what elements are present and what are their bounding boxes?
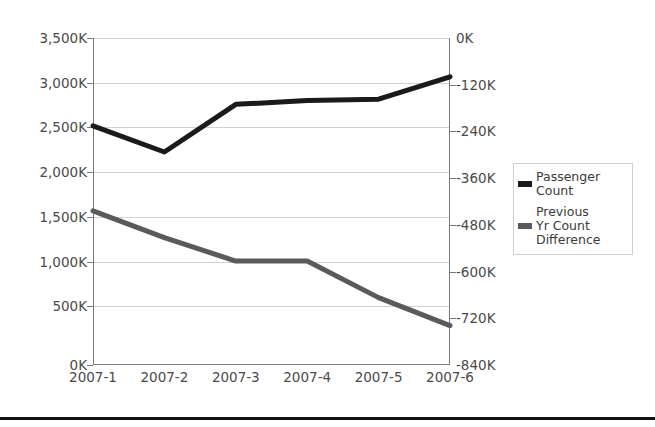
left-axis-tick-label: 1,000K [39,255,87,269]
x-axis: 2007-1 2007-2 2007-3 2007-4 2007-5 2007-… [93,369,450,389]
left-axis-tick-label: 3,500K [39,31,87,45]
left-axis-tick-label: 2,500K [39,120,87,134]
right-axis-tick-label: -480K [456,218,496,232]
legend-swatch-icon [518,223,532,229]
legend-label: Previous Yr Count Difference [536,205,600,247]
left-axis-tick [87,365,93,366]
right-axis-tick [450,178,456,179]
legend-swatch-icon [518,181,532,187]
x-axis-tick-label: 2007-3 [212,369,260,385]
footer-divider [0,417,655,420]
chart-container: 3,500K 3,000K 2,500K 2,000K 1,500K 1,000… [0,0,655,427]
series-plot [93,38,450,365]
x-axis-tick-label: 2007-4 [283,369,331,385]
legend-label-line: Passenger [536,169,600,184]
right-axis-tick [450,85,456,86]
left-axis-tick-label: 500K [52,299,87,313]
right-axis-tick-label: 0K [456,31,473,45]
right-axis-tick [450,272,456,273]
right-axis-tick [450,318,456,319]
series-line-previous-yr-count-difference [93,211,450,326]
left-axis-tick-label: 3,000K [39,76,87,90]
right-axis-tick-label: -600K [456,265,496,279]
series-line-passenger-count [93,77,450,152]
legend-label-line: Yr Count [536,218,590,233]
right-axis-tick-label: -240K [456,124,496,138]
chart-legend: Passenger Count Previous Yr Count Differ… [513,163,633,255]
right-axis-tick [450,131,456,132]
left-axis-tick-label: 1,500K [39,210,87,224]
left-y-axis: 3,500K 3,000K 2,500K 2,000K 1,500K 1,000… [0,0,87,427]
right-axis-tick [450,225,456,226]
right-axis-tick-label: -720K [456,311,496,325]
right-axis-tick-label: -360K [456,171,496,185]
left-axis-tick-label: 2,000K [39,165,87,179]
x-axis-tick-label: 2007-1 [69,369,117,385]
x-axis-tick-label: 2007-2 [140,369,188,385]
legend-label: Passenger Count [536,170,600,198]
legend-item-passenger-count: Passenger Count [518,170,628,198]
legend-label-line: Count [536,183,573,198]
x-axis-tick-label: 2007-6 [426,369,474,385]
x-axis-tick-label: 2007-5 [355,369,403,385]
legend-label-line: Difference [536,232,600,247]
legend-item-previous-yr-count-difference: Previous Yr Count Difference [518,205,628,247]
right-axis-tick-label: -120K [456,78,496,92]
legend-label-line: Previous [536,204,589,219]
